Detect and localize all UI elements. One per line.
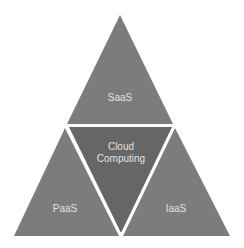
center-label-line2: Computing: [88, 153, 154, 165]
paas-label: PaaS: [45, 203, 85, 215]
saas-triangle: [67, 15, 173, 124]
center-label-line1: Cloud: [88, 141, 154, 153]
saas-label: SaaS: [100, 92, 140, 104]
center-label: Cloud Computing: [88, 141, 154, 165]
iaas-label: IaaS: [156, 203, 196, 215]
pyramid-diagram: [0, 0, 244, 248]
